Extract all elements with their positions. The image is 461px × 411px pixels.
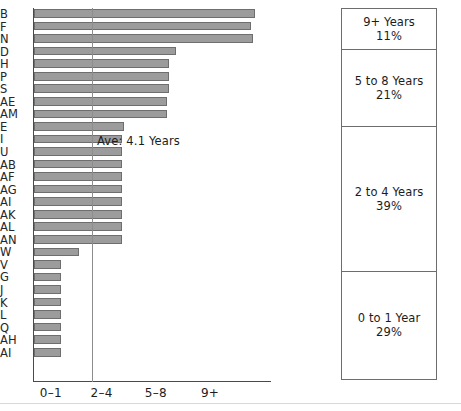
bar-fill (34, 147, 122, 156)
figure-root: BFNDHPSAEAMEIUABAFAGAIAKALANWVGJKLQAHAI … (0, 0, 461, 411)
bar-category-label: S (0, 83, 28, 96)
bar-row: AG (0, 184, 300, 197)
stack-segment: 5 to 8 Years21% (342, 50, 436, 128)
stack-segment-percent: 29% (376, 325, 402, 339)
bar-row: AB (0, 159, 300, 172)
average-reference-line (92, 8, 93, 382)
bar-category-label: AF (0, 171, 28, 184)
bar-track (34, 83, 300, 96)
bar-fill (34, 222, 122, 231)
bar-fill (34, 110, 167, 119)
bar-row: J (0, 284, 300, 297)
bar-category-label: L (0, 309, 28, 322)
bar-fill (34, 348, 61, 357)
bar-row: B (0, 8, 300, 21)
bar-track (34, 159, 300, 172)
bar-track (34, 322, 300, 335)
bar-row: K (0, 297, 300, 310)
x-tick-label: 0–1 (40, 386, 62, 400)
bar-category-label: B (0, 8, 28, 21)
stack-segment-percent: 39% (376, 199, 402, 213)
bar-row: AF (0, 171, 300, 184)
bar-rows-container: BFNDHPSAEAMEIUABAFAGAIAKALANWVGJKLQAHAI (0, 8, 300, 359)
bar-category-label: G (0, 271, 28, 284)
bar-row: W (0, 246, 300, 259)
stack-segment-percent: 21% (376, 88, 402, 102)
stack-segment-label: 2 to 4 Years (355, 185, 424, 199)
bar-category-label: U (0, 146, 28, 159)
bar-fill (34, 72, 169, 81)
bar-category-label: AI (0, 196, 28, 209)
bar-row: AH (0, 334, 300, 347)
bar-track (34, 246, 300, 259)
bar-track (34, 71, 300, 84)
bar-fill (34, 84, 169, 93)
bar-row: AK (0, 209, 300, 222)
bar-track (34, 259, 300, 272)
bar-track (34, 21, 300, 34)
bar-track (34, 221, 300, 234)
bar-row: V (0, 259, 300, 272)
bar-fill (34, 47, 176, 56)
bar-fill (34, 185, 122, 194)
bar-track (34, 171, 300, 184)
bar-fill (34, 122, 124, 131)
bar-chart-panel: BFNDHPSAEAMEIUABAFAGAIAKALANWVGJKLQAHAI … (0, 0, 300, 411)
bar-row: S (0, 83, 300, 96)
bar-track (34, 271, 300, 284)
bar-fill (34, 160, 122, 169)
average-annotation-label: Ave: 4.1 Years (97, 134, 180, 148)
bar-track (34, 196, 300, 209)
bar-category-label: E (0, 121, 28, 134)
bar-fill (34, 323, 61, 332)
bar-track (34, 284, 300, 297)
bar-track (34, 334, 300, 347)
bar-track (34, 234, 300, 247)
y-axis-line (33, 8, 34, 382)
bar-track (34, 108, 300, 121)
bar-track (34, 8, 300, 21)
bar-row: G (0, 271, 300, 284)
stack-segment-label: 0 to 1 Year (358, 311, 421, 325)
bar-track (34, 297, 300, 310)
bar-fill (34, 335, 61, 344)
bar-row: H (0, 58, 300, 71)
bar-fill (34, 22, 251, 31)
bar-fill (34, 172, 122, 181)
bar-category-label: AI (0, 347, 28, 360)
stack-segment-percent: 11% (376, 29, 402, 43)
bar-fill (34, 197, 122, 206)
bar-fill (34, 9, 255, 18)
stack-segment: 9+ Years11% (342, 9, 436, 50)
bar-row: AN (0, 234, 300, 247)
stack-segment: 2 to 4 Years39% (342, 127, 436, 271)
bar-row: D (0, 46, 300, 59)
bar-row: Q (0, 322, 300, 335)
bar-track (34, 121, 300, 134)
bar-row: E (0, 121, 300, 134)
bar-fill (34, 285, 61, 294)
bottom-divider (0, 403, 461, 404)
stack-segment-label: 9+ Years (363, 15, 415, 29)
bar-fill (34, 59, 169, 68)
x-tick-label: 5–8 (145, 386, 167, 400)
bar-row: AE (0, 96, 300, 109)
bar-row: AL (0, 221, 300, 234)
bar-track (34, 209, 300, 222)
stack-segment-label: 5 to 8 Years (355, 74, 424, 88)
bar-fill (34, 298, 61, 307)
bar-category-label: AL (0, 221, 28, 234)
bar-row: AI (0, 347, 300, 360)
bar-row: AI (0, 196, 300, 209)
bar-fill (34, 310, 61, 319)
bar-track (34, 184, 300, 197)
bar-category-label: H (0, 58, 28, 71)
bar-fill (34, 235, 122, 244)
bar-fill (34, 210, 122, 219)
bar-track (34, 58, 300, 71)
x-axis-line (33, 381, 271, 382)
bar-track (34, 347, 300, 360)
stack-segment: 0 to 1 Year29% (342, 272, 436, 379)
bar-fill (34, 97, 167, 106)
bar-track (34, 33, 300, 46)
